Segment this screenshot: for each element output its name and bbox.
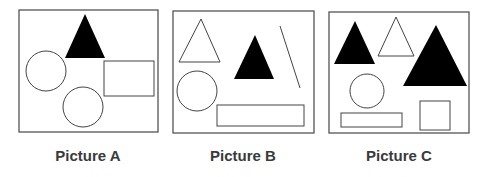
picture-b-label: Picture B <box>210 147 276 165</box>
picture-c-label: Picture C <box>366 147 432 165</box>
picture-c <box>329 12 469 133</box>
picture-a-label: Picture A <box>55 147 120 165</box>
picture-b <box>173 11 314 133</box>
picture-a <box>19 10 158 132</box>
